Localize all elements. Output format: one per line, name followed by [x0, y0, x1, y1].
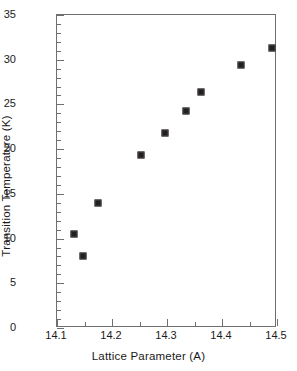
x-axis-tick-label: 14.3 [143, 330, 189, 341]
x-axis-tick-label: 14.4 [198, 330, 244, 341]
data-point [237, 62, 244, 69]
data-point [137, 152, 144, 159]
data-point [162, 130, 169, 137]
data-point [80, 253, 87, 260]
y-axis-tick-label: 30 [0, 53, 16, 64]
y-axis-tick-label: 5 [0, 277, 16, 288]
data-point [197, 88, 204, 95]
y-axis-tick-label: 0 [0, 322, 16, 333]
x-axis-tick-label: 14.2 [88, 330, 134, 341]
y-axis-tick-label: 10 [0, 232, 16, 243]
y-axis-tick-label: 15 [0, 187, 16, 198]
x-axis-tick-label: 14.5 [253, 330, 297, 341]
scatter-chart-figure: Transition Temperature (K) 0510152025303… [0, 0, 297, 371]
data-point [95, 199, 102, 206]
data-point [268, 45, 275, 52]
data-points-layer [57, 15, 275, 326]
x-axis-tick-label: 14.1 [33, 330, 79, 341]
data-point [70, 231, 77, 238]
y-axis-tick-label: 25 [0, 98, 16, 109]
data-point [182, 107, 189, 114]
x-axis-title-text: Lattice Parameter (A) [92, 350, 206, 362]
plot-area [56, 14, 276, 327]
y-axis-tick-label: 35 [0, 9, 16, 20]
x-axis-major-tick [277, 319, 278, 326]
x-axis-title: Lattice Parameter (A) [0, 350, 297, 362]
y-axis-tick-label: 20 [0, 143, 16, 154]
